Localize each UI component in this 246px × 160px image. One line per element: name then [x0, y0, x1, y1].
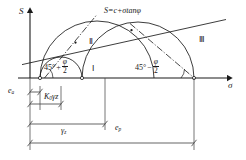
angle-arc-passive — [181, 69, 185, 78]
tangency-point-II — [74, 41, 76, 43]
dimension-bar-gz — [28, 121, 108, 127]
tangency-point-III — [130, 29, 132, 31]
mohr-circle-figure: S σ S=c+σtanφ Ⅰ Ⅱ Ⅲ 45°+ φ 2 45°− φ 2 ea… — [0, 0, 246, 160]
dimension-bar-ep — [28, 140, 197, 146]
angle-arc-active — [50, 69, 54, 78]
pole-point-a — [38, 76, 41, 79]
dimension-bar-k0gz — [28, 101, 64, 107]
pole-point-b — [80, 76, 83, 79]
dimension-bars-group — [28, 89, 197, 146]
angle-arcs-group — [50, 69, 185, 78]
dimension-droplines-group — [30, 78, 194, 150]
mohr-circle-I — [40, 57, 82, 78]
axis-group — [18, 12, 228, 78]
construction-line-left — [45, 15, 98, 79]
construction-lines-group — [45, 15, 194, 79]
mohr-circles-group — [40, 21, 194, 78]
figure-canvas — [0, 0, 246, 160]
construction-line-right — [130, 24, 193, 78]
